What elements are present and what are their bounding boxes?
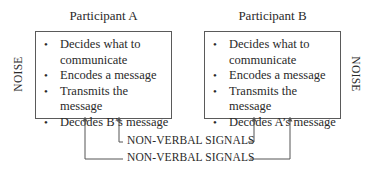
nonverbal-signals-inner-label: NON-VERBAL SIGNALS — [127, 134, 255, 146]
arrow-down-icon — [250, 119, 290, 159]
nonverbal-signals-outer-label: NON-VERBAL SIGNALS — [127, 151, 255, 163]
arrow-down-icon — [119, 119, 123, 142]
arrow-up-icon — [85, 119, 123, 159]
signal-connectors — [0, 0, 374, 174]
